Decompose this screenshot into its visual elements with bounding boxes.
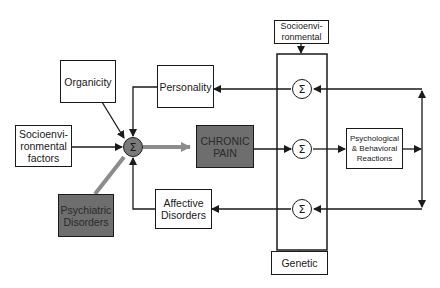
node-label: Socioenvi- — [19, 128, 68, 140]
node-genetic: Genetic — [271, 251, 328, 275]
summing-junction-middle: Σ — [292, 139, 312, 159]
node-label: & Behavioral — [352, 144, 397, 154]
node-psychiatric-disorders: Psychiatric Disorders — [58, 194, 114, 237]
node-socioenvironmental-top: Socioenvi- ronmental — [274, 20, 329, 44]
summing-junction-bottom: Σ — [292, 199, 312, 219]
node-psychological-behavioral-reactions: Psychological & Behavioral Reactions — [346, 128, 403, 169]
node-label: factors — [28, 152, 60, 164]
node-label: Disorders — [64, 216, 109, 228]
sigma-icon: Σ — [299, 203, 306, 216]
node-organicity: Organicity — [60, 60, 116, 103]
node-chronic-pain: CHRONIC PAIN — [196, 125, 254, 168]
sigma-icon: Σ — [130, 141, 137, 154]
node-socioenvironmental-factors: Socioenvi- ronmental factors — [15, 125, 72, 167]
arrow-organicity-to-sum — [102, 102, 124, 138]
node-label: Personality — [160, 81, 212, 93]
node-label: ronmental — [281, 32, 321, 43]
summing-junction-top: Σ — [292, 79, 312, 99]
sigma-icon: Σ — [299, 83, 306, 96]
node-label: CHRONIC — [201, 135, 250, 147]
sigma-icon: Σ — [299, 143, 306, 156]
node-label: ronmental — [20, 140, 67, 152]
node-personality: Personality — [157, 65, 214, 108]
node-label: Reactions — [357, 154, 393, 164]
node-label: Socioenvi- — [280, 21, 322, 32]
arrow-personality-to-sum — [133, 87, 157, 136]
node-label: Psychological — [350, 134, 399, 144]
node-label: Affective — [163, 197, 203, 209]
gray-arrow-psychiatric-to-sum — [95, 157, 124, 194]
node-label: Psychiatric — [61, 204, 112, 216]
node-affective-disorders: Affective Disorders — [155, 189, 212, 229]
node-label: Organicity — [64, 76, 111, 88]
node-label: PAIN — [213, 147, 237, 159]
summing-junction-central: Σ — [123, 137, 143, 157]
node-label: Genetic — [281, 257, 317, 269]
node-label: Disorders — [161, 209, 206, 221]
arrow-affective-to-sum — [133, 158, 155, 209]
